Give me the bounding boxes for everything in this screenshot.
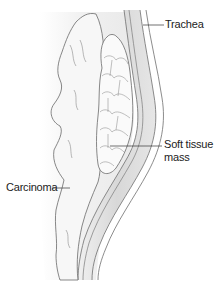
soft-tissue-mass-label-line2: mass bbox=[164, 151, 213, 164]
carcinoma-label: Carcinoma bbox=[6, 181, 57, 194]
soft-tissue-mass-label: Soft tissue mass bbox=[164, 138, 213, 164]
trachea-label: Trachea bbox=[165, 18, 204, 31]
soft-tissue-mass-label-line1: Soft tissue bbox=[164, 138, 213, 151]
